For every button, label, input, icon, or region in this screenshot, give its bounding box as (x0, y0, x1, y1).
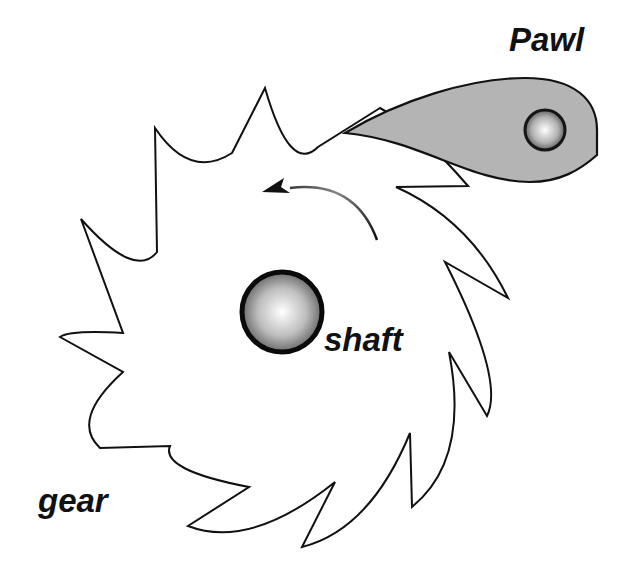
ratchet-diagram: Pawl shaft gear (0, 0, 631, 576)
pawl-pivot-pin (525, 110, 565, 150)
pawl-label: Pawl (509, 23, 584, 56)
shaft-label: shaft (324, 323, 403, 356)
gear-label: gear (38, 484, 108, 517)
shaft (242, 272, 322, 352)
